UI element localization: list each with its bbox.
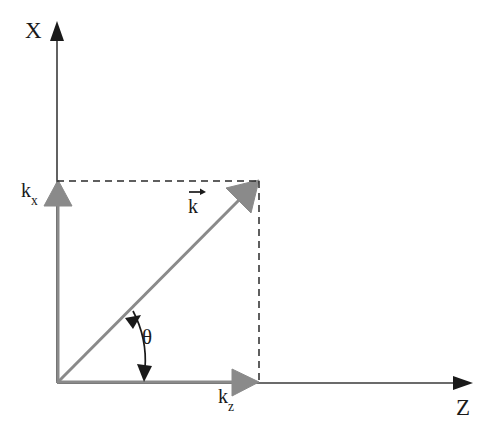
kz-component-label: kz [218, 386, 234, 411]
vector-overarrow-icon [189, 186, 206, 195]
kx-base-letter: k [21, 179, 31, 201]
diagram-canvas [0, 0, 497, 445]
z-axis-arrowhead-icon [453, 376, 473, 390]
kx-component-label: kx [21, 180, 38, 205]
kz-subscript: z [228, 399, 234, 414]
k-vector-label-stack: k [188, 196, 198, 216]
z-axis-label: Z [456, 396, 470, 419]
x-axis-label: X [25, 19, 42, 42]
theta-angle-label: θ [142, 327, 152, 348]
kx-arrowhead-icon [44, 180, 72, 206]
k-vector-base-letter: k [188, 196, 198, 216]
theta-arc-arrowhead-lower-icon [137, 364, 152, 382]
axes-group [50, 21, 473, 390]
k-vector-line [57, 193, 246, 383]
kz-base-letter: k [218, 385, 228, 407]
wave-vector-diagram: X Z kx kz θ k [0, 0, 497, 445]
kx-subscript: x [31, 193, 38, 208]
k-vector-group [57, 180, 259, 383]
kz-arrowhead-icon [232, 369, 259, 396]
x-axis-arrowhead-icon [50, 21, 64, 41]
k-vector-label: k [188, 196, 198, 216]
